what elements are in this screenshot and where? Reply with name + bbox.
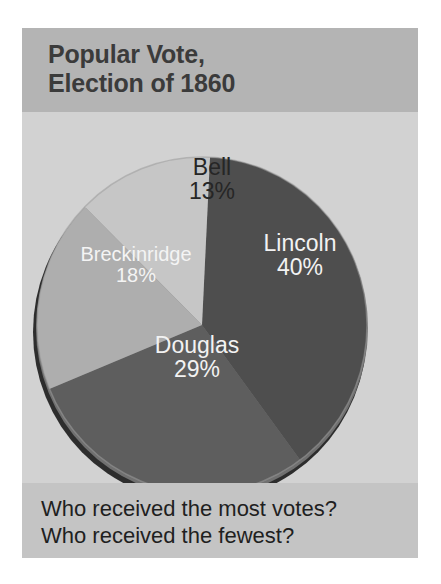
- pie-chart-svg: [22, 112, 418, 483]
- pie-chart: Lincoln 40% Douglas 29% Breckinridge 18%…: [22, 112, 418, 483]
- chart-card: Popular Vote, Election of 1860: [22, 28, 418, 558]
- chart-footer-band: Who received the most votes? Who receive…: [22, 483, 418, 558]
- chart-plot-area: Lincoln 40% Douglas 29% Breckinridge 18%…: [22, 112, 418, 483]
- chart-header-band: Popular Vote, Election of 1860: [22, 28, 418, 112]
- page-title: Popular Vote, Election of 1860: [48, 40, 398, 98]
- chart-questions: Who received the most votes? Who receive…: [41, 495, 407, 549]
